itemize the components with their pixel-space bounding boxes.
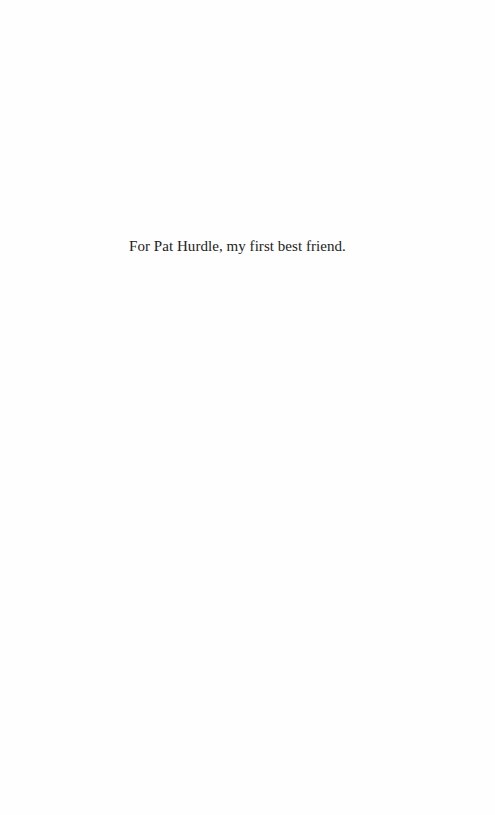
book-page: For Pat Hurdle, my first best friend. (0, 0, 495, 815)
dedication-text: For Pat Hurdle, my first best friend. (0, 237, 475, 255)
